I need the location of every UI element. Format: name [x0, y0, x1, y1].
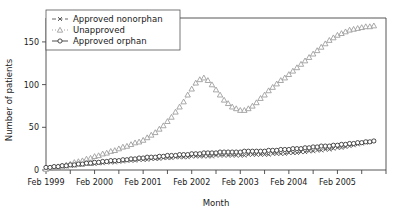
data-point-circle: [165, 153, 169, 157]
data-point-circle: [129, 157, 133, 161]
data-point-circle: [113, 159, 117, 163]
data-point-circle: [88, 161, 92, 165]
chart-canvas: 050100150 Feb 1999Feb 2000Feb 2001Feb 20…: [0, 0, 398, 212]
data-point-triangle: [181, 99, 186, 104]
x-axis-label: Month: [203, 198, 230, 208]
data-point-circle: [149, 155, 153, 159]
data-point-circle: [157, 154, 161, 158]
data-point-circle: [173, 153, 177, 157]
data-point-circle: [44, 165, 48, 169]
data-point-circle: [109, 159, 113, 163]
data-point-circle: [214, 151, 218, 155]
data-point-circle: [303, 146, 307, 150]
x-axis-ticks: Feb 1999Feb 2000Feb 2001Feb 2002Feb 2003…: [27, 170, 386, 187]
data-point-circle: [323, 144, 327, 148]
data-point-circle: [287, 147, 291, 151]
data-point-circle: [250, 149, 254, 153]
x-tick-label: Feb 2000: [76, 178, 113, 187]
data-point-circle: [105, 159, 109, 163]
x-tick-label: Feb 2003: [222, 178, 259, 187]
data-point-triangle: [177, 104, 182, 109]
legend-label-1: Unapproved: [73, 25, 125, 35]
data-point-circle: [226, 150, 230, 154]
data-point-circle: [230, 150, 234, 154]
data-point-circle: [315, 145, 319, 149]
data-point-circle: [186, 153, 190, 157]
data-point-circle: [222, 150, 226, 154]
data-point-circle: [56, 164, 60, 168]
data-point-triangle: [201, 75, 206, 80]
chart-legend: Approved nonorphanUnapprovedApproved orp…: [46, 10, 180, 50]
data-point-circle: [339, 142, 343, 146]
data-point-circle: [76, 162, 80, 166]
data-point-circle: [352, 141, 356, 145]
data-point-circle: [169, 153, 173, 157]
data-point-circle: [97, 160, 101, 164]
data-point-circle: [198, 152, 202, 156]
data-point-circle: [52, 164, 56, 168]
data-point-circle: [267, 148, 271, 152]
x-tick-label: Feb 2002: [173, 178, 210, 187]
y-tick-label: 50: [29, 123, 39, 132]
data-point-circle: [194, 152, 198, 156]
legend-label-2: Approved orphan: [73, 36, 147, 46]
data-point-circle: [48, 165, 52, 169]
data-point-circle: [234, 150, 238, 154]
data-point-circle: [335, 143, 339, 147]
data-point-circle: [210, 151, 214, 155]
data-point-circle: [117, 159, 121, 163]
data-point-circle: [242, 149, 246, 153]
data-point-circle: [121, 158, 125, 162]
data-point-circle: [145, 155, 149, 159]
data-point-circle: [72, 163, 76, 167]
data-point-circle: [92, 160, 96, 164]
data-point-triangle: [221, 97, 226, 102]
data-point-circle: [299, 147, 303, 151]
data-point-circle: [271, 148, 275, 152]
data-point-circle: [238, 150, 242, 154]
data-point-circle: [291, 147, 295, 151]
data-point-circle: [246, 149, 250, 153]
data-point-circle: [202, 151, 206, 155]
data-point-circle: [307, 146, 311, 150]
y-tick-label: 150: [24, 38, 39, 47]
data-point-circle: [60, 164, 64, 168]
data-point-circle: [319, 144, 323, 148]
data-point-circle: [295, 147, 299, 151]
legend-label-0: Approved nonorphan: [73, 14, 163, 24]
data-point-triangle: [217, 92, 222, 97]
x-tick-label: Feb 2001: [125, 178, 162, 187]
y-axis-label: Number of patients: [4, 58, 14, 141]
data-point-circle: [258, 149, 262, 153]
y-tick-label: 0: [34, 166, 39, 175]
chart-figure: 050100150 Feb 1999Feb 2000Feb 2001Feb 20…: [0, 0, 398, 212]
data-point-circle: [218, 150, 222, 154]
data-point-circle: [331, 143, 335, 147]
y-axis-ticks: 050100150: [24, 38, 46, 175]
x-tick-label: Feb 2004: [270, 178, 307, 187]
data-point-circle: [182, 153, 186, 157]
x-tick-label: Feb 2005: [319, 178, 356, 187]
data-point-circle: [64, 164, 68, 168]
data-point-circle: [327, 144, 331, 148]
data-point-circle: [279, 147, 283, 151]
data-point-triangle: [185, 92, 190, 97]
data-point-circle: [133, 157, 137, 161]
data-point-circle: [141, 156, 145, 160]
data-point-triangle: [189, 86, 194, 91]
data-point-circle: [177, 153, 181, 157]
data-point-circle: [360, 141, 364, 145]
data-point-circle: [364, 140, 368, 144]
data-point-circle: [347, 141, 351, 145]
data-point-circle: [58, 39, 62, 43]
data-point-circle: [206, 151, 210, 155]
data-point-circle: [343, 142, 347, 146]
data-point-circle: [262, 149, 266, 153]
data-point-circle: [161, 154, 165, 158]
data-point-circle: [283, 147, 287, 151]
data-point-circle: [125, 158, 129, 162]
data-point-circle: [275, 148, 279, 152]
y-tick-label: 100: [24, 81, 39, 90]
x-tick-label: Feb 1999: [27, 178, 64, 187]
data-point-circle: [311, 145, 315, 149]
